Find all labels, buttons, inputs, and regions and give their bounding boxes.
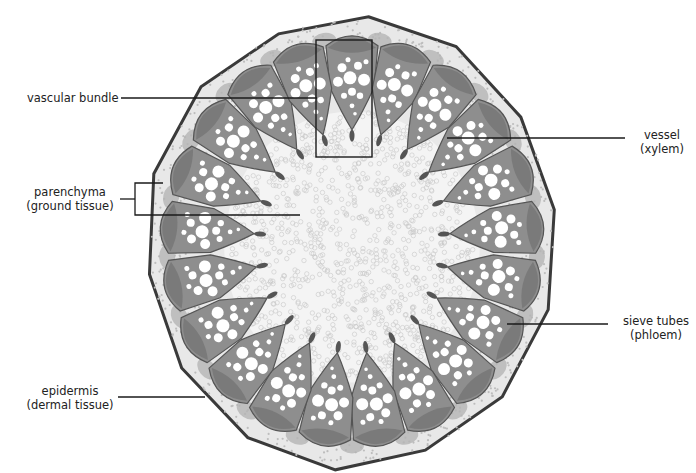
bundle-tip: [350, 130, 355, 142]
cortex-cell: [527, 145, 529, 147]
cortex-cell: [249, 54, 251, 56]
cortex-cell: [494, 387, 496, 389]
cortex-cell: [446, 47, 448, 49]
cortex-cell: [331, 24, 333, 26]
cortex-cell: [371, 452, 373, 454]
cortex-cell: [302, 30, 304, 32]
cortex-cell: [525, 255, 527, 257]
cortex-cell: [235, 416, 237, 418]
cortex-cell: [421, 42, 423, 44]
cortex-cell: [335, 449, 337, 451]
cortex-cell: [458, 56, 460, 58]
cortex-cell: [502, 98, 504, 100]
cortex-cell: [305, 40, 307, 42]
cortex-cell: [175, 328, 177, 330]
cortex-cell: [507, 362, 509, 364]
cortex-cell: [157, 179, 159, 181]
cortex-cell: [490, 93, 492, 95]
cortex-cell: [340, 456, 342, 458]
cortex-cell: [170, 321, 172, 323]
cortex-cell: [490, 98, 492, 100]
cortex-cell: [175, 330, 177, 332]
cortex-cell: [180, 200, 182, 202]
cortex-cell: [198, 306, 200, 308]
cortex-cell: [376, 453, 378, 455]
cortex-cell: [181, 125, 183, 127]
cortex-cell: [547, 282, 549, 284]
cortex-cell: [323, 459, 325, 461]
cortex-cell: [232, 79, 234, 81]
cortex-cell: [456, 426, 458, 428]
cortex-cell: [208, 392, 210, 394]
cortex-cell: [330, 459, 332, 461]
cortex-cell: [510, 372, 512, 374]
cortex-cell: [250, 60, 252, 62]
cortex-cell: [169, 167, 171, 169]
cortex-cell: [172, 148, 174, 150]
cortex-cell: [469, 416, 471, 418]
cortex-cell: [208, 384, 210, 386]
cortex-cell: [488, 391, 490, 393]
cortex-cell: [243, 61, 245, 63]
cortex-cell: [277, 438, 279, 440]
cortex-cell: [162, 299, 164, 301]
cortex-cell: [267, 438, 269, 440]
cortex-cell: [525, 342, 527, 344]
cortex-cell: [398, 29, 400, 31]
cortex-cell: [540, 179, 542, 181]
cortex-cell: [357, 33, 359, 35]
label-parenchyma-text: parenchyma: [20, 185, 120, 199]
cortex-cell: [447, 435, 449, 437]
cortex-cell: [315, 27, 317, 29]
cortex-cell: [427, 443, 429, 445]
cortex-cell: [552, 246, 554, 248]
cortex-cell: [406, 38, 408, 40]
cortex-cell: [283, 445, 285, 447]
cortex-cell: [189, 113, 191, 115]
cortex-cell: [474, 77, 476, 79]
cortex-cell: [263, 44, 265, 46]
cortex-cell: [172, 145, 174, 147]
cortex-cell: [543, 200, 545, 202]
cortex-cell: [363, 460, 365, 462]
cortex-cell: [220, 74, 222, 76]
xylem-vessel: [346, 57, 351, 62]
cortex-cell: [526, 135, 528, 137]
cortex-cell: [509, 369, 511, 371]
cortex-cell: [221, 400, 223, 402]
cortex-cell: [203, 389, 205, 391]
cortex-cell: [429, 435, 431, 437]
cortex-cell: [546, 243, 548, 245]
cortex-cell: [490, 387, 492, 389]
label-sieve-tubes-phloem: sieve tubes (phloem): [616, 314, 696, 342]
cortex-cell: [536, 317, 538, 319]
cortex-cell: [193, 112, 195, 114]
cortex-cell: [255, 47, 257, 49]
cortex-cell: [550, 209, 552, 211]
cortex-cell: [537, 159, 539, 161]
xylem-vessel: [364, 59, 369, 64]
cortex-cell: [222, 80, 224, 82]
cortex-cell: [542, 286, 544, 288]
cortex-cell: [525, 346, 527, 348]
xylem-vessel: [344, 71, 357, 84]
cortex-cell: [312, 35, 314, 37]
cortex-cell: [418, 43, 420, 45]
xylem-vessel: [338, 63, 347, 72]
xylem-vessel: [350, 103, 355, 108]
cortex-cell: [179, 147, 181, 149]
cortex-cell: [417, 440, 419, 442]
cortex-cell: [545, 267, 547, 269]
cortex-cell: [518, 348, 520, 350]
cortex-cell: [486, 88, 488, 90]
cortex-cell: [521, 126, 523, 128]
cortex-cell: [371, 449, 373, 451]
cortex-cell: [159, 207, 161, 209]
cortex-cell: [372, 457, 374, 459]
cortex-cell: [438, 46, 440, 48]
cortex-cell: [359, 32, 361, 34]
cortex-cell: [287, 41, 289, 43]
cortex-cell: [512, 127, 514, 129]
cortex-cell: [379, 458, 381, 460]
cortex-cell: [440, 425, 442, 427]
